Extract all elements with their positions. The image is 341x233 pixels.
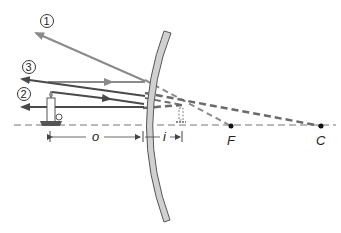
object-distance: o (50, 129, 143, 144)
image-distance-label: i (163, 129, 167, 144)
center-label: C (316, 133, 326, 148)
virtual-rays (143, 80, 321, 126)
ray-label-1: 1 (41, 15, 54, 28)
svg-text:2: 2 (21, 88, 27, 100)
ray-3 (22, 79, 145, 96)
ray-1 (36, 33, 145, 81)
svg-text:1: 1 (44, 15, 50, 27)
convex-mirror (147, 31, 172, 222)
candle-object (40, 91, 62, 126)
focal-point (229, 124, 234, 129)
center-of-curvature (319, 124, 324, 129)
virtual-image (176, 108, 186, 122)
ray-label-2: 2 (18, 88, 31, 101)
ray-diagram: F C o i 1 3 2 (0, 0, 341, 233)
object-distance-label: o (92, 129, 99, 144)
focal-label: F (227, 133, 236, 148)
ray-label-3: 3 (23, 61, 36, 74)
svg-text:3: 3 (26, 61, 32, 73)
